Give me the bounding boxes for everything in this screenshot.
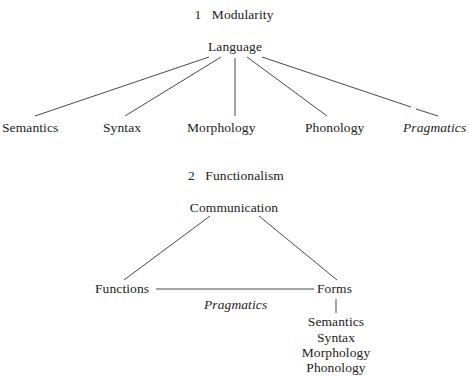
diagram2-number: 2	[188, 168, 195, 183]
diagram1-title: Modularity	[212, 7, 274, 22]
node-phonology: Phonology	[305, 120, 364, 136]
node-pragmatics: Pragmatics	[403, 120, 466, 136]
node-syntax: Syntax	[103, 120, 141, 136]
node-communication: Communication	[190, 200, 278, 216]
node-semantics: Semantics	[2, 120, 58, 136]
line-language-semantics	[35, 57, 209, 116]
forms-component-phonology: Phonology	[306, 360, 365, 376]
line-language-pragmatics-a	[262, 57, 411, 107]
line-communication-forms	[259, 216, 337, 280]
diagram2-title: Functionalism	[205, 168, 284, 183]
node-language: Language	[208, 39, 262, 55]
diagram1-heading: 1 Modularity	[194, 7, 273, 23]
line-communication-functions	[124, 216, 210, 280]
forms-component-semantics: Semantics	[308, 314, 364, 330]
node-forms: Forms	[317, 281, 352, 297]
diagram1-number: 1	[194, 7, 201, 22]
link-label-pragmatics: Pragmatics	[204, 297, 267, 313]
node-functions: Functions	[95, 281, 149, 297]
connector-lines	[0, 0, 469, 376]
forms-component-morphology: Morphology	[302, 345, 371, 361]
forms-component-syntax: Syntax	[317, 330, 355, 346]
diagram2-heading: 2 Functionalism	[188, 168, 284, 184]
line-language-pragmatics-b	[416, 109, 438, 116]
line-language-syntax	[125, 57, 221, 116]
node-morphology: Morphology	[187, 120, 256, 136]
